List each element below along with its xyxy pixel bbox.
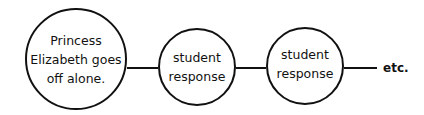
node-response-1: student response [159,29,235,105]
node-response-1-line-1: student [173,50,221,65]
node-start-line-1: Princess [50,33,101,48]
node-start-line-2: Elizabeth goes [30,52,121,67]
node-response-1-circle [159,29,235,105]
node-response-1-line-2: response [169,69,226,84]
node-start-line-3: off alone. [47,71,106,86]
node-response-2-line-1: student [281,47,329,62]
node-response-2: student response [267,28,343,104]
node-start: Princess Elizabeth goes off alone. [26,9,126,109]
story-chain-diagram: Princess Elizabeth goes off alone. stude… [0,0,424,115]
node-response-2-line-2: response [277,66,334,81]
etc-label: etc. [383,61,409,75]
